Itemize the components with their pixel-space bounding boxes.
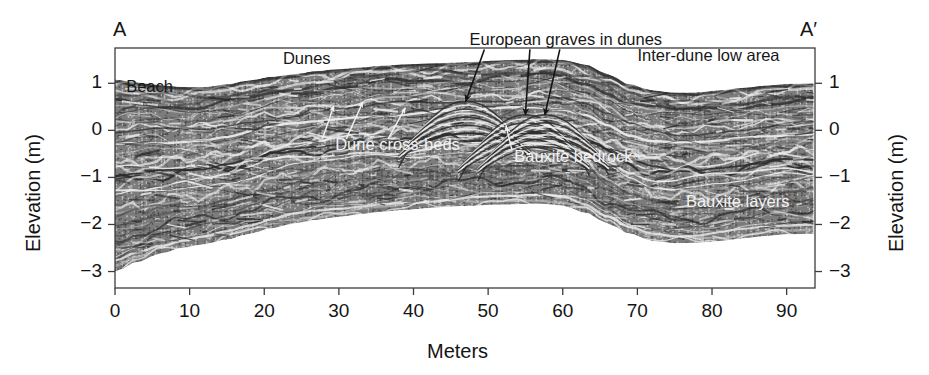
y-tick-label-right-3: −2 — [829, 212, 851, 234]
label-dunes: Dunes — [283, 49, 331, 68]
y-tick-label-right-4: −3 — [829, 260, 851, 282]
y-tick-label-left-0: 1 — [91, 71, 102, 93]
cross-section-end-label: A′ — [800, 18, 817, 41]
gpr-figure: A A′ Elevation (m) Elevation (m) Meters … — [0, 0, 929, 375]
y-tick-label-left-3: −2 — [80, 212, 102, 234]
x-tick-label-0: 0 — [110, 300, 121, 322]
x-tick-label-70: 70 — [627, 300, 648, 322]
y-tick-label-right-2: −1 — [829, 165, 851, 187]
label-beach: Beach — [126, 77, 173, 96]
label-dune-cross-beds: Dune cross-beds — [335, 135, 460, 154]
x-axis-title: Meters — [427, 340, 488, 363]
x-tick-label-30: 30 — [328, 300, 349, 322]
y-tick-label-left-1: 0 — [91, 118, 102, 140]
y-tick-label-right-1: 0 — [829, 118, 840, 140]
y-axis-title-right: Elevation (m) — [885, 134, 908, 252]
x-tick-label-50: 50 — [478, 300, 499, 322]
x-tick-label-10: 10 — [179, 300, 200, 322]
y-axis-title-left: Elevation (m) — [22, 134, 45, 252]
x-tick-label-80: 80 — [701, 300, 722, 322]
x-tick-label-60: 60 — [552, 300, 573, 322]
radar-section-band — [115, 59, 839, 275]
label-inter-dune-low-area: Inter-dune low area — [637, 46, 779, 65]
label-bauxite-layers: Bauxite layers — [686, 192, 790, 211]
cross-section-start-label: A — [113, 18, 126, 41]
label-bauxite-bedrock: Bauxite bedrock — [514, 147, 632, 166]
x-tick-label-20: 20 — [254, 300, 275, 322]
y-tick-label-left-4: −3 — [80, 260, 102, 282]
x-tick-label-90: 90 — [776, 300, 797, 322]
label-european-graves: European graves in dunes — [469, 30, 662, 49]
y-tick-label-left-2: −1 — [80, 165, 102, 187]
y-tick-label-right-0: 1 — [829, 71, 840, 93]
x-tick-label-40: 40 — [403, 300, 424, 322]
